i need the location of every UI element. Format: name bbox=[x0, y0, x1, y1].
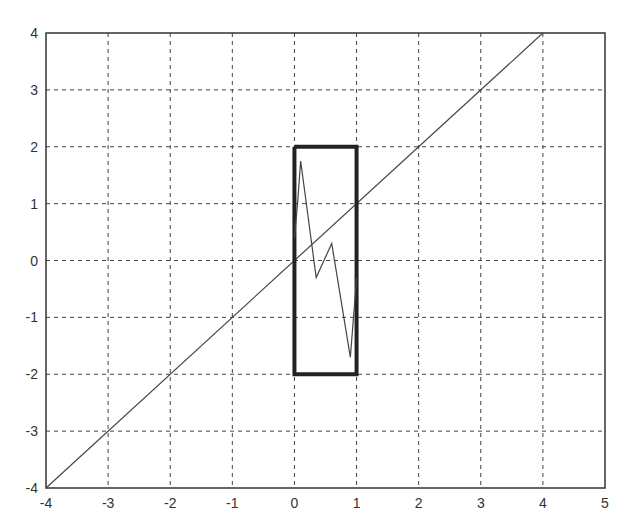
x-tick-label: -3 bbox=[102, 495, 115, 511]
y-tick-label: -2 bbox=[26, 366, 39, 382]
y-tick-label: 2 bbox=[30, 139, 38, 155]
x-tick-label: 5 bbox=[601, 495, 609, 511]
x-tick-label: 4 bbox=[539, 495, 547, 511]
y-tick-label: 3 bbox=[30, 82, 38, 98]
y-tick-label: -3 bbox=[26, 423, 39, 439]
x-tick-label: 2 bbox=[415, 495, 423, 511]
y-tick-label: 1 bbox=[30, 196, 38, 212]
series-zigzag bbox=[294, 161, 356, 357]
x-tick-label: -4 bbox=[40, 495, 53, 511]
x-tick-label: -2 bbox=[164, 495, 177, 511]
x-tick-label: -1 bbox=[226, 495, 239, 511]
y-tick-label: -4 bbox=[26, 480, 39, 496]
x-tick-label: 3 bbox=[477, 495, 485, 511]
line-chart: -4-3-2-101234543210-1-2-3-4 bbox=[0, 0, 635, 532]
x-tick-label: 0 bbox=[291, 495, 299, 511]
y-tick-label: 4 bbox=[30, 25, 38, 41]
x-tick-label: 1 bbox=[353, 495, 361, 511]
y-tick-label: -1 bbox=[26, 309, 39, 325]
y-tick-label: 0 bbox=[30, 253, 38, 269]
